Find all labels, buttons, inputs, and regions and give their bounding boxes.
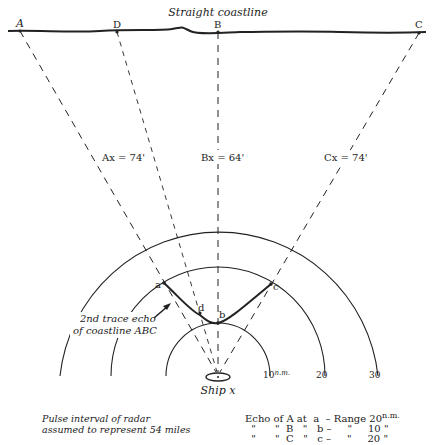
range-ring-30 <box>60 232 378 376</box>
bearing-label-cx: Cx = 74' <box>324 152 368 163</box>
point-label-c: C <box>415 19 423 30</box>
point-label-a: A <box>15 17 24 30</box>
point-label-b: B <box>214 19 221 30</box>
legend-row: Echo of A at a – Range 20n.m. <box>245 411 400 424</box>
range-label-30: 30 <box>369 370 381 380</box>
bearing-label-bx: Bx = 64' <box>201 152 244 163</box>
echo-label-a: a <box>155 279 161 290</box>
pulse-caption: Pulse interval of radar assumed to repre… <box>42 413 190 435</box>
bearing-label-ax: Ax = 74' <box>101 152 145 163</box>
echo-label-b: b <box>219 309 225 320</box>
second-trace-echo <box>164 283 271 323</box>
echo-legend: Echo of A at a – Range 20n.m. " " B " b … <box>245 411 400 444</box>
caption-line2: assumed to represent 54 miles <box>42 424 190 435</box>
legend-row: " " C " c – " 20 " <box>245 434 400 444</box>
point-label-d: D <box>113 19 121 30</box>
annotation-line2: of coastline ABC <box>73 325 157 336</box>
caption-line1: Pulse interval of radar <box>42 413 190 424</box>
range-label-20: 20 <box>316 370 328 380</box>
ship-label: Ship x <box>201 384 237 397</box>
radar-coastline-diagram: Straight coastline A D B C Ax = 74' Bx =… <box>0 0 434 445</box>
bearing-line-c <box>220 33 419 372</box>
annotation-line1: 2nd trace echo <box>79 313 156 324</box>
range-label-10: 10n.m. <box>263 369 290 380</box>
coastline-title: Straight coastline <box>168 6 268 19</box>
echo-label-d: d <box>198 302 205 313</box>
echo-label-c: c <box>273 281 279 292</box>
